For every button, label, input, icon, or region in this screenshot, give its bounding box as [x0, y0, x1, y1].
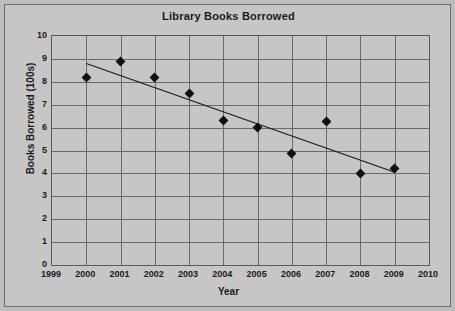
plot-area	[51, 35, 430, 266]
chart-container: Library Books Borrowed 012345678910 Book…	[4, 4, 451, 307]
x-axis-tick-labels: 1999200020012002200320042005200620072008…	[51, 269, 428, 283]
x-axis-title: Year	[5, 286, 452, 297]
chart-title: Library Books Borrowed	[5, 10, 452, 22]
x-tick-label: 2010	[408, 269, 448, 279]
y-tick-label: 0	[13, 260, 47, 269]
trendline	[52, 36, 429, 265]
y-axis-title: Books Borrowed (100s)	[25, 34, 36, 204]
y-tick-label: 1	[13, 237, 47, 246]
y-tick-label: 2	[13, 214, 47, 223]
